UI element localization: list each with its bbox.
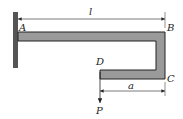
fixed-wall <box>13 12 18 68</box>
frame-beam <box>18 32 165 79</box>
point-d-label: D <box>95 56 104 67</box>
diagram-canvas: l a P A B C D <box>0 0 183 119</box>
point-c-label: C <box>167 73 175 84</box>
load-label: P <box>95 105 103 116</box>
dim-l-label: l <box>89 6 92 17</box>
dim-a-label: a <box>128 80 134 91</box>
point-b-label: B <box>166 22 174 33</box>
point-a-label: A <box>18 22 26 33</box>
